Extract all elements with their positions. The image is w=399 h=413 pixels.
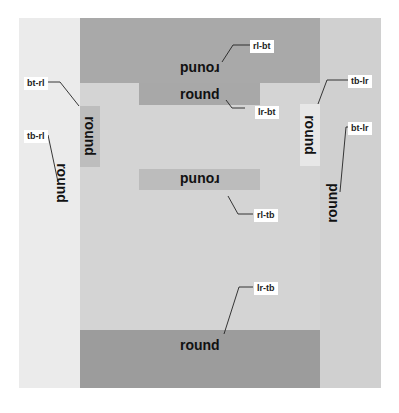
label-rl-bt: rl-bt bbox=[250, 40, 274, 53]
label-tb-lr: tb-lr bbox=[348, 75, 372, 88]
label-lr-tb: lr-tb bbox=[254, 282, 278, 295]
center-region bbox=[80, 83, 320, 330]
label-rl-tb: rl-tb bbox=[254, 209, 278, 222]
label-lr-bt: lr-bt bbox=[255, 106, 279, 119]
label-tb-rl: tb-rl bbox=[24, 130, 48, 143]
label-bt-rl: bt-rl bbox=[24, 77, 48, 90]
left-strip bbox=[19, 18, 80, 388]
rl-tb-word: round bbox=[180, 173, 220, 187]
bottom-band-word: round bbox=[180, 338, 220, 352]
left-strip-word: round bbox=[55, 163, 69, 203]
lr-bt-word: round bbox=[180, 87, 220, 101]
right-strip-word: round bbox=[325, 183, 339, 223]
right-box-word: round bbox=[303, 115, 317, 155]
left-box-word: round bbox=[83, 116, 97, 156]
top-band-word: round bbox=[180, 62, 220, 76]
label-bt-lr: bt-lr bbox=[348, 122, 372, 135]
